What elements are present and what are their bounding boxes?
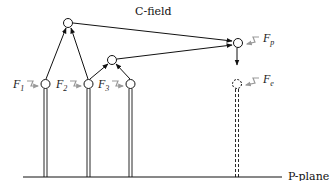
force-arrow-f3 (112, 81, 123, 86)
edge-mid-target (117, 45, 232, 59)
c-field-label: C-field (135, 5, 172, 18)
force-label-fe: Fe (262, 72, 274, 88)
pillar-2 (87, 89, 90, 177)
edge-n3-mid (116, 64, 130, 79)
node-mid (108, 56, 117, 65)
node-top (64, 19, 73, 28)
force-arrow-f1 (27, 81, 38, 86)
force-label-f3: F3 (97, 77, 109, 93)
edge-n1-top (46, 28, 66, 79)
force-label-f2: F2 (55, 77, 67, 93)
force-label-fp: Fp (262, 31, 274, 47)
force-arrow-fe (246, 78, 259, 85)
node-emerging (233, 80, 242, 89)
node-3 (126, 80, 135, 89)
node-1 (41, 80, 50, 89)
force-arrow-f2 (70, 81, 81, 86)
node-target (234, 39, 243, 48)
edge-top-target (73, 23, 232, 41)
diagram-canvas: C-field P-plane F1 F2 F3 Fp Fe (0, 0, 333, 181)
pillar-1 (44, 89, 47, 177)
edge-n2-top (71, 28, 88, 79)
force-arrow-fp (247, 37, 259, 44)
node-2 (84, 80, 93, 89)
p-plane-label: P-plane (288, 170, 329, 181)
pillar-3 (129, 89, 132, 177)
pillar-dashed (236, 89, 239, 177)
force-label-f1: F1 (12, 77, 24, 93)
